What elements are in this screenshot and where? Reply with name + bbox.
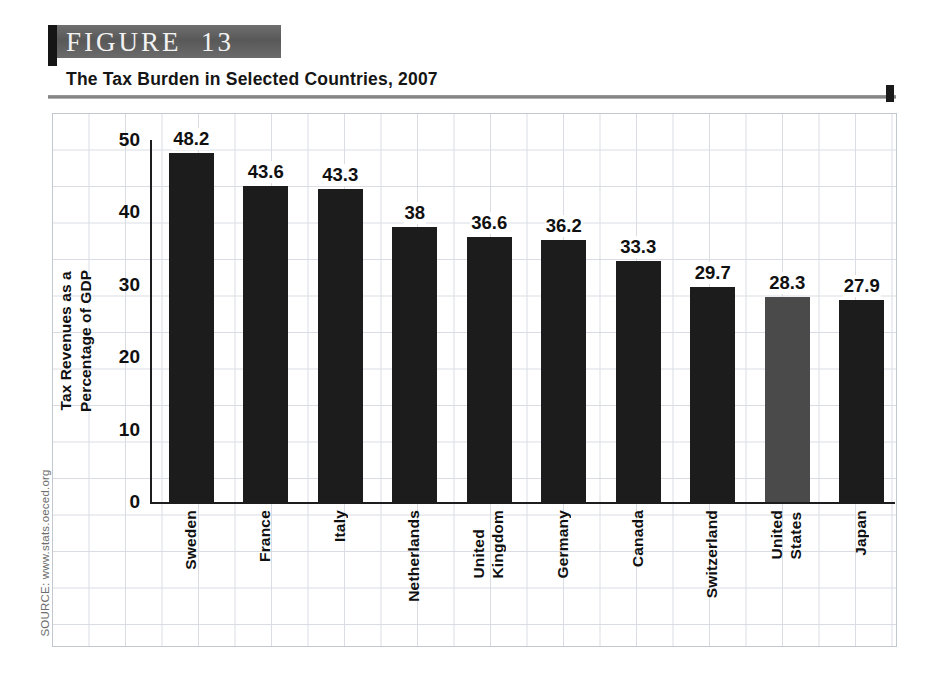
bar: 27.9 — [839, 300, 884, 502]
bar: 36.6 — [467, 237, 512, 502]
x-axis-category-label: Japan — [852, 510, 870, 556]
y-axis-tick-label: 50 — [119, 129, 140, 151]
category-label-line: United — [470, 510, 488, 579]
figure-page: FIGURE 13 The Tax Burden in Selected Cou… — [0, 0, 930, 674]
y-axis-tick-labels: 01020304050 — [96, 0, 140, 674]
bar: 43.6 — [243, 186, 288, 502]
category-label-line: Italy — [331, 510, 349, 542]
category-label-line: France — [256, 510, 274, 562]
x-axis-category-label: Canada — [629, 510, 647, 567]
bar: 29.7 — [690, 287, 735, 502]
x-axis-category-label: Germany — [554, 510, 572, 579]
y-axis-tick-label: 0 — [129, 491, 140, 513]
bar-value-label: 43.3 — [321, 164, 359, 186]
x-axis-category-label: UnitedKingdom — [470, 510, 507, 579]
category-label-line: United — [768, 510, 786, 559]
x-axis-category-label: Switzerland — [703, 510, 721, 598]
bar: 43.3 — [318, 189, 363, 502]
figure-banner-edge — [48, 25, 57, 66]
figure-number-label: FIGURE 13 — [66, 27, 234, 58]
y-axis-title-line-2: Percentage of GDP — [76, 191, 96, 491]
source-note: SOURCE: www.stats.oeced.org — [39, 422, 51, 637]
bar-value-label: 28.3 — [768, 272, 806, 294]
y-axis-tick-label: 30 — [119, 274, 140, 296]
x-axis-category-label: UnitedStates — [768, 510, 805, 559]
title-rule-end-cap — [886, 85, 894, 102]
category-label-line: Switzerland — [703, 510, 721, 598]
bar-value-label: 48.2 — [172, 128, 210, 150]
x-axis-category-label: Sweden — [182, 510, 200, 570]
category-label-line: Netherlands — [405, 510, 423, 602]
bar: 28.3 — [765, 297, 810, 502]
title-rule — [48, 95, 896, 99]
bar: 36.2 — [541, 240, 586, 502]
category-label-line: States — [787, 510, 805, 559]
category-label-line: Sweden — [182, 510, 200, 570]
y-axis-tick-label: 10 — [119, 419, 140, 441]
y-axis-tick-label: 40 — [119, 201, 140, 223]
category-label-line: Canada — [629, 510, 647, 567]
x-axis-category-label: Italy — [331, 510, 349, 542]
bar-value-label: 36.2 — [545, 215, 583, 237]
x-axis-category-label: France — [256, 510, 274, 562]
bar: 33.3 — [616, 261, 661, 502]
category-label-line: Germany — [554, 510, 572, 579]
y-axis-tick-label: 20 — [119, 346, 140, 368]
bar-value-label: 43.6 — [247, 161, 285, 183]
category-label-line: Kingdom — [489, 510, 507, 579]
y-axis-title-line-1: Tax Revenues as a — [56, 191, 76, 491]
x-axis-category-label: Netherlands — [405, 510, 423, 602]
bar-value-label: 38 — [403, 202, 426, 224]
y-axis-title: Tax Revenues as a Percentage of GDP — [56, 191, 96, 491]
x-axis-line — [150, 502, 895, 504]
category-label-line: Japan — [852, 510, 870, 556]
plot-area: 48.243.643.33836.636.233.329.728.327.9 — [150, 140, 895, 502]
bar-value-label: 27.9 — [843, 275, 881, 297]
bar: 48.2 — [169, 153, 214, 502]
bar-value-label: 29.7 — [694, 262, 732, 284]
bar: 38 — [392, 227, 437, 502]
bar-value-label: 36.6 — [470, 212, 508, 234]
bar-value-label: 33.3 — [619, 236, 657, 258]
